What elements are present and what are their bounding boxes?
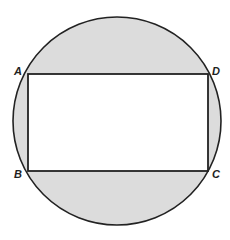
- vertex-label-c: C: [212, 168, 221, 180]
- vertex-label-d: D: [212, 65, 220, 77]
- vertex-label-a: A: [13, 65, 22, 77]
- vertex-label-b: B: [14, 168, 22, 180]
- diagram-svg: A D B C: [0, 0, 230, 240]
- diagram-canvas: A D B C: [0, 0, 230, 240]
- rectangle-abcd: [28, 74, 208, 171]
